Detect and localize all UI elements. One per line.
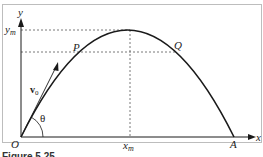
angle-label: θ xyxy=(40,112,45,124)
x-axis-label: x xyxy=(255,131,261,143)
y-axis-label: y xyxy=(17,6,23,18)
origin-label: O xyxy=(11,138,19,150)
projectile-diagram: y x O ym xm P Q A v0 θ Figure 5.25 xyxy=(0,0,263,157)
landing-point-label: A xyxy=(229,138,237,150)
figure-caption: Figure 5.25 xyxy=(2,151,55,157)
point-p-label: P xyxy=(72,41,80,53)
point-q-label: Q xyxy=(174,39,182,51)
